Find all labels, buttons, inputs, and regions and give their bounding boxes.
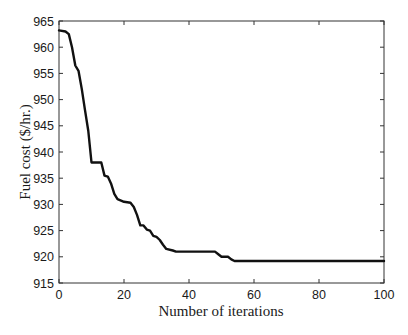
y-tick-label: 940 (33, 146, 54, 160)
x-tick-label: 80 (312, 288, 326, 302)
y-tick-label: 945 (33, 119, 54, 133)
y-tick-label: 955 (33, 67, 54, 81)
y-axis-label: Fuel cost ($/hr.) (17, 104, 34, 199)
fuel-cost-chart: 915920925930935940945950955960965 020406… (0, 0, 408, 335)
y-tick-label: 920 (33, 250, 54, 264)
y-tick-label: 965 (33, 15, 54, 29)
y-tick-label: 915 (33, 277, 54, 291)
x-tick-label: 20 (117, 288, 131, 302)
y-tick-label: 930 (33, 198, 54, 212)
y-tick-label: 950 (33, 93, 54, 107)
y-tick-label: 925 (33, 224, 54, 238)
x-tick-label: 0 (56, 288, 63, 302)
x-tick-label: 60 (247, 288, 261, 302)
fuel-cost-line (59, 30, 384, 261)
x-axis-label: Number of iterations (159, 303, 284, 319)
y-tick-label: 960 (33, 41, 54, 55)
y-axis-ticks: 915920925930935940945950955960965 (33, 15, 384, 291)
x-tick-label: 100 (374, 288, 395, 302)
plot-area-frame (59, 21, 384, 283)
x-tick-label: 40 (182, 288, 196, 302)
y-tick-label: 935 (33, 172, 54, 186)
